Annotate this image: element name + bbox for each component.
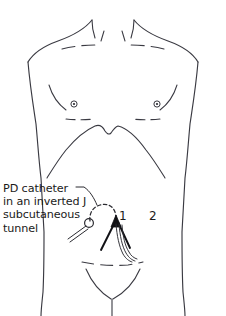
torso-outline-left bbox=[28, 20, 92, 62]
pectoral-fold-right bbox=[132, 119, 160, 120]
pd-catheter-annotation: PD catheter in an inverted J subcutaneou… bbox=[3, 182, 86, 235]
clavicle-right-dashed bbox=[130, 45, 164, 49]
nipple-right-center bbox=[156, 103, 158, 105]
catheter-intraperitoneal-tubing-a bbox=[116, 224, 132, 262]
groin-v-right bbox=[113, 269, 140, 299]
torso-right-flank bbox=[182, 62, 198, 316]
annotation-line-4: tunnel bbox=[3, 222, 86, 235]
costal-margin-curve bbox=[47, 125, 165, 178]
suprasternal-notch-left bbox=[101, 31, 104, 41]
annotation-line-2: in an inverted J bbox=[3, 195, 86, 208]
pubic-dashed-line bbox=[82, 262, 143, 265]
pectoral-fold-left bbox=[66, 119, 94, 120]
clavicle-left-dashed bbox=[62, 45, 96, 49]
figure-canvas: PD catheter in an inverted J subcutaneou… bbox=[0, 0, 226, 316]
axilla-left-curve bbox=[49, 85, 66, 110]
torso-diagram bbox=[0, 0, 226, 316]
nipple-left-center bbox=[73, 103, 75, 105]
axilla-right-curve bbox=[160, 85, 177, 110]
neck-left-line bbox=[92, 20, 95, 38]
site-marker-1: 1 bbox=[119, 210, 127, 223]
torso-outline-right bbox=[134, 20, 198, 62]
catheter-anchor-line-left bbox=[101, 222, 115, 250]
neck-right-line bbox=[131, 20, 134, 38]
annotation-line-1: PD catheter bbox=[3, 182, 86, 195]
site-marker-2: 2 bbox=[149, 210, 157, 223]
catheter-intraperitoneal-tubing-c bbox=[122, 225, 137, 259]
suprasternal-notch-right bbox=[122, 31, 125, 41]
annotation-line-3: subcutaneous bbox=[3, 208, 86, 221]
groin-v-left bbox=[86, 269, 111, 299]
inverted-j-subcutaneous-tunnel-dashed bbox=[90, 204, 116, 221]
